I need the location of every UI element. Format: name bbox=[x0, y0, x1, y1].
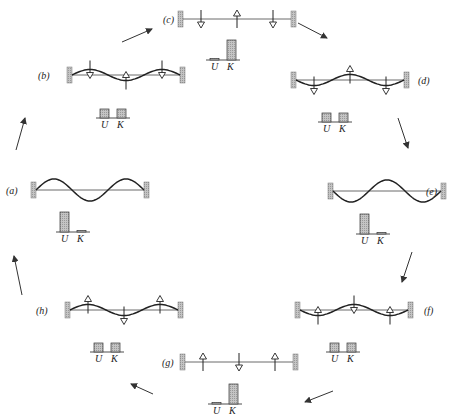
cycle-arrow-b-to-c-icon bbox=[122, 29, 152, 42]
kinetic-energy-bar bbox=[227, 40, 236, 60]
panel-label: (d) bbox=[418, 75, 430, 87]
energy-bar-chart: UK bbox=[208, 384, 242, 416]
bar-label-U: U bbox=[361, 235, 369, 246]
potential-energy-bar bbox=[210, 59, 219, 61]
bar-label-U: U bbox=[211, 61, 219, 72]
potential-energy-bar bbox=[100, 109, 109, 118]
panel-g: (g)UK bbox=[162, 353, 298, 416]
bar-label-K: K bbox=[228, 405, 237, 416]
right-wall bbox=[293, 354, 298, 370]
kinetic-energy-bar bbox=[77, 231, 86, 233]
kinetic-energy-bar bbox=[111, 343, 120, 352]
standing-wave-cycle-diagram: (a)UK(b)UK(c)UK(d)UK(e)UK(f)UK(g)UK(h)UK bbox=[0, 0, 450, 418]
right-wall bbox=[404, 72, 409, 88]
bar-label-U: U bbox=[95, 353, 103, 364]
right-wall bbox=[441, 183, 446, 199]
left-wall bbox=[295, 302, 300, 318]
energy-bar-chart: UK bbox=[356, 214, 390, 246]
bar-label-U: U bbox=[331, 353, 339, 364]
cycle-arrow-e-to-f-icon bbox=[402, 252, 412, 282]
energy-bar-chart: UK bbox=[96, 109, 130, 130]
bar-label-K: K bbox=[226, 61, 235, 72]
panel-h: (h)UK bbox=[36, 296, 183, 365]
bar-label-U: U bbox=[323, 123, 331, 134]
left-wall bbox=[328, 183, 333, 199]
panel-label: (a) bbox=[6, 185, 18, 197]
bar-label-U: U bbox=[101, 119, 109, 130]
bar-label-U: U bbox=[61, 233, 69, 244]
left-wall bbox=[31, 182, 36, 198]
kinetic-energy-bar bbox=[117, 109, 126, 118]
right-wall bbox=[291, 11, 296, 27]
potential-energy-bar bbox=[360, 214, 369, 234]
panel-label: (f) bbox=[424, 305, 434, 317]
panel-e: (e)UK bbox=[328, 180, 446, 246]
left-wall bbox=[291, 72, 296, 88]
kinetic-energy-bar bbox=[347, 343, 356, 352]
panel-label: (e) bbox=[426, 186, 438, 198]
potential-energy-bar bbox=[94, 343, 103, 352]
energy-bar-chart: UK bbox=[206, 40, 240, 72]
energy-bar-chart: UK bbox=[56, 212, 90, 244]
panel-label: (b) bbox=[38, 70, 50, 82]
panel-c: (c)UK bbox=[163, 10, 296, 72]
kinetic-energy-bar bbox=[229, 384, 238, 404]
panel-b: (b)UK bbox=[38, 61, 185, 131]
left-wall bbox=[65, 302, 70, 318]
panel-label: (g) bbox=[162, 357, 174, 369]
cycle-arrow-f-to-g-icon bbox=[305, 391, 333, 402]
energy-bar-chart: UK bbox=[326, 343, 360, 364]
panel-label: (h) bbox=[36, 305, 48, 317]
potential-energy-bar bbox=[212, 403, 221, 405]
kinetic-energy-bar bbox=[339, 113, 348, 122]
energy-bar-chart: UK bbox=[90, 343, 124, 364]
cycle-arrow-h-to-a-icon bbox=[14, 256, 22, 295]
left-wall bbox=[67, 67, 72, 83]
panel-f: (f)UK bbox=[295, 296, 434, 365]
panel-d: (d)UK bbox=[291, 66, 430, 135]
right-wall bbox=[408, 302, 413, 318]
right-wall bbox=[180, 67, 185, 83]
cycle-arrow-d-to-e-icon bbox=[398, 118, 408, 148]
bar-label-K: K bbox=[76, 233, 85, 244]
bar-label-K: K bbox=[110, 353, 119, 364]
energy-bar-chart: UK bbox=[318, 113, 352, 134]
right-wall bbox=[144, 182, 149, 198]
potential-energy-bar bbox=[330, 343, 339, 352]
cycle-arrow-a-to-b-icon bbox=[16, 118, 25, 150]
panel-label: (c) bbox=[163, 14, 175, 26]
bar-label-K: K bbox=[346, 353, 355, 364]
kinetic-energy-bar bbox=[377, 233, 386, 235]
potential-energy-bar bbox=[60, 212, 69, 232]
left-wall bbox=[180, 354, 185, 370]
bar-label-U: U bbox=[213, 405, 221, 416]
bar-label-K: K bbox=[116, 119, 125, 130]
left-wall bbox=[178, 11, 183, 27]
bar-label-K: K bbox=[338, 123, 347, 134]
bar-label-K: K bbox=[376, 235, 385, 246]
cycle-arrow-c-to-d-icon bbox=[298, 23, 327, 38]
panel-a: (a)UK bbox=[6, 179, 149, 244]
right-wall bbox=[178, 302, 183, 318]
cycle-arrow-g-to-h-icon bbox=[131, 384, 153, 394]
potential-energy-bar bbox=[322, 113, 331, 122]
